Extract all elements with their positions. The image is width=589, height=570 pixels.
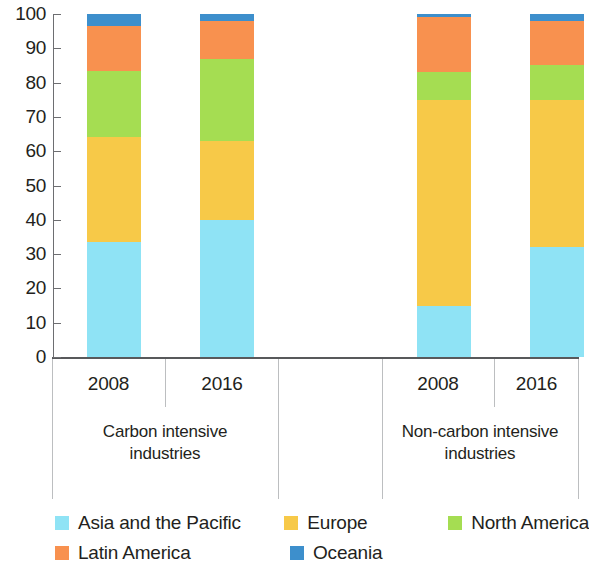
category-label-2016-noncarbon: 2016 [495,373,578,395]
legend-item-asia-and-the-pacific[interactable]: Asia and the Pacific [55,512,284,534]
bar-segment-latin-america [530,21,584,66]
category-label-2008-noncarbon: 2008 [382,373,494,395]
legend-label: Latin America [78,542,191,564]
bar-segment-asia-and-the-pacific [200,220,254,357]
bar-segment-north-america [87,71,141,138]
group-label-line-2: industries [382,443,578,465]
category-axis: 2008 2016 2008 2016 Carbon intensive ind… [52,359,579,499]
bar-segment-asia-and-the-pacific [87,242,141,357]
group-label-carbon-intensive: Carbon intensive industries [52,421,278,465]
legend-item-oceania[interactable]: Oceania [290,542,458,564]
bar-carbon-intensive-industries-2008 [87,14,141,357]
y-axis-label: 100 [0,4,46,23]
group-label-line-1: Carbon intensive [52,421,278,443]
y-axis-label: 70 [0,107,46,126]
bar-segment-europe [530,100,584,247]
bar-non-carbon-intensive-industries-2016 [530,14,584,357]
group-label-non-carbon-intensive: Non-carbon intensive industries [382,421,578,465]
bar-segment-asia-and-the-pacific [417,306,471,357]
y-axis-label: 90 [0,38,46,57]
category-label-2008-carbon: 2008 [52,373,165,395]
y-axis-tick [53,357,61,358]
bar-carbon-intensive-industries-2016 [200,14,254,357]
bar-segment-north-america [200,59,254,141]
bar-segment-latin-america [200,21,254,59]
bar-segment-north-america [417,72,471,99]
bar-segment-oceania [87,14,141,26]
bar-segment-europe [417,100,471,306]
bar-segment-north-america [530,65,584,99]
category-divider [578,359,579,499]
bar-non-carbon-intensive-industries-2008 [417,14,471,357]
group-label-line-2: industries [52,443,278,465]
legend-item-europe[interactable]: Europe [284,512,448,534]
legend-swatch-icon [290,546,304,560]
y-axis-label: 40 [0,210,46,229]
bar-segment-asia-and-the-pacific [530,247,584,357]
category-label-2016-carbon: 2016 [166,373,278,395]
legend-item-latin-america[interactable]: Latin America [55,542,290,564]
legend-label: Europe [307,512,367,534]
legend-swatch-icon [55,516,69,530]
legend-swatch-icon [284,516,298,530]
y-axis-label: 50 [0,176,46,195]
chart-legend: Asia and the Pacific Europe North Americ… [55,508,589,568]
legend-label: Oceania [313,542,382,564]
y-axis-label: 0 [0,347,46,366]
bars-layer [55,14,575,357]
stacked-bar-chart: 1009080706050403020100 2008 2016 2008 20… [0,0,589,570]
bar-segment-oceania [530,14,584,21]
category-divider [278,359,279,499]
y-axis-label: 30 [0,244,46,263]
bar-segment-latin-america [87,26,141,71]
y-axis-label: 80 [0,73,46,92]
y-axis-label: 20 [0,278,46,297]
bar-segment-europe [200,141,254,220]
group-label-line-1: Non-carbon intensive [382,421,578,443]
legend-row-1: Asia and the Pacific Europe North Americ… [55,508,589,538]
y-axis-label: 60 [0,141,46,160]
legend-row-2: Latin America Oceania [55,538,589,568]
legend-swatch-icon [448,516,462,530]
bar-segment-latin-america [417,17,471,72]
y-axis-label: 10 [0,313,46,332]
legend-swatch-icon [55,546,69,560]
bar-segment-oceania [200,14,254,21]
bar-segment-europe [87,137,141,242]
legend-label: North America [471,512,589,534]
legend-item-north-america[interactable]: North America [448,512,589,534]
legend-label: Asia and the Pacific [78,512,241,534]
